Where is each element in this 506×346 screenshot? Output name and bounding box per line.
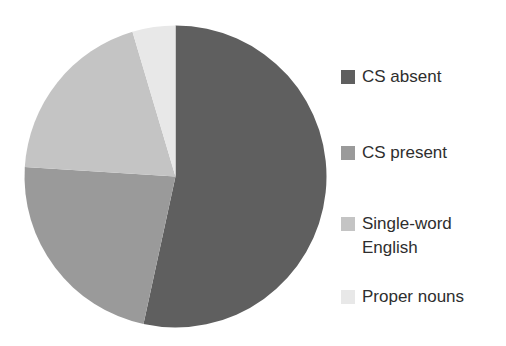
legend-label-cs-absent: CS absent xyxy=(362,65,502,89)
pie-chart xyxy=(0,0,340,346)
legend-item-proper-nouns: Proper nouns xyxy=(341,290,502,309)
legend-swatch-single-word-english xyxy=(341,217,355,231)
legend-label-proper-nouns: Proper nouns xyxy=(362,285,502,309)
legend-item-cs-absent: CS absent xyxy=(341,70,502,89)
legend-label-cs-present: CS present xyxy=(362,141,502,165)
legend-swatch-cs-present xyxy=(341,146,355,160)
legend-item-single-word-english: Single-word English xyxy=(341,217,502,260)
legend-swatch-cs-absent xyxy=(341,70,355,84)
legend-item-cs-present: CS present xyxy=(341,146,502,165)
legend-swatch-proper-nouns xyxy=(341,290,355,304)
legend-label-single-word-english: Single-word English xyxy=(362,212,502,260)
